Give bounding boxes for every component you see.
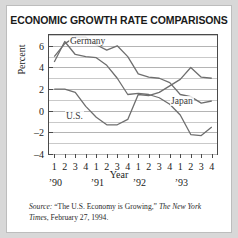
gridline [49,154,217,155]
series-label-us: U.S. [65,111,84,121]
x-tick-mark [149,154,150,158]
x-tick-mark [170,154,171,158]
figure-panel: ECONOMIC GROWTH RATE COMPARISONS 6420–2–… [6,5,232,233]
x-tick-mark [191,154,192,158]
x-tick-mark [65,154,66,158]
series-lines [49,35,217,154]
y-tick-label: 0 [39,105,44,116]
series-label-japan: Japan [170,96,194,106]
x-tick-mark [117,154,118,158]
y-tick-label: 2 [39,84,44,95]
x-tick-mark [128,154,129,158]
x-tick-mark [138,154,139,158]
plot-area: 6420–2–41234123412341234’90’91’92’93 [48,34,218,155]
x-tick-mark [75,154,76,158]
y-tick-label: –4 [34,149,44,160]
x-tick-mark [159,154,160,158]
source-article: “The U.S. Economy is Growing,” [54,202,157,211]
x-tick-mark [107,154,108,158]
series-label-germany: Germany [69,36,106,46]
x-tick-mark [201,154,202,158]
y-tick-mark [49,89,53,90]
y-axis-label: Percent [16,20,27,100]
y-tick-mark [49,111,53,112]
y-tick-label: –2 [34,127,44,138]
source-label: Source: [29,202,52,211]
y-tick-mark [49,46,53,47]
y-tick-mark [49,154,53,155]
x-tick-mark [96,154,97,158]
chart-title: ECONOMIC GROWTH RATE COMPARISONS [7,14,231,26]
series-line-germany [54,41,212,135]
x-tick-mark [180,154,181,158]
x-tick-mark [212,154,213,158]
x-axis-label: Year [7,169,231,180]
y-tick-label: 6 [39,40,44,51]
source-note: Source: “The U.S. Economy is Growing,” T… [29,202,213,223]
y-tick-mark [49,132,53,133]
source-date: , February 27, 1994. [47,213,109,222]
y-tick-mark [49,67,53,68]
x-tick-mark [54,154,55,158]
y-tick-label: 4 [39,62,44,73]
x-tick-mark [86,154,87,158]
